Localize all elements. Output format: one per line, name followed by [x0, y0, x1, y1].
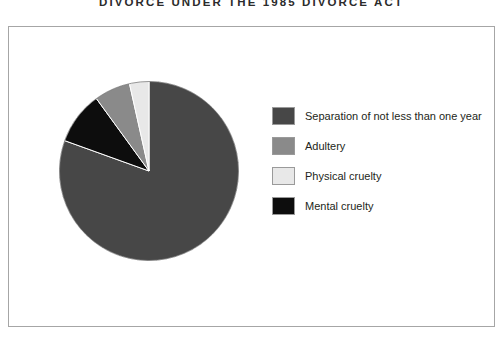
- legend-swatch-physical-cruelty: [272, 167, 295, 185]
- legend-label-mental-cruelty: Mental cruelty: [305, 200, 373, 213]
- page-title: DIVORCE UNDER THE 1985 DIVORCE ACT: [0, 0, 503, 10]
- legend-item-adultery: Adultery: [272, 131, 487, 161]
- legend-swatch-adultery: [272, 137, 295, 155]
- pie-chart: [58, 80, 240, 262]
- legend-swatch-mental-cruelty: [272, 197, 295, 215]
- legend-item-mental-cruelty: Mental cruelty: [272, 191, 487, 221]
- chart-frame: Separation of not less than one year Adu…: [8, 26, 495, 327]
- legend-swatch-separation: [272, 107, 295, 125]
- legend-label-adultery: Adultery: [305, 140, 345, 153]
- pie-svg: [58, 80, 240, 262]
- chart-legend: Separation of not less than one year Adu…: [272, 101, 487, 221]
- legend-label-physical-cruelty: Physical cruelty: [305, 170, 381, 183]
- legend-item-physical-cruelty: Physical cruelty: [272, 161, 487, 191]
- legend-label-separation: Separation of not less than one year: [305, 110, 482, 123]
- legend-item-separation: Separation of not less than one year: [272, 101, 487, 131]
